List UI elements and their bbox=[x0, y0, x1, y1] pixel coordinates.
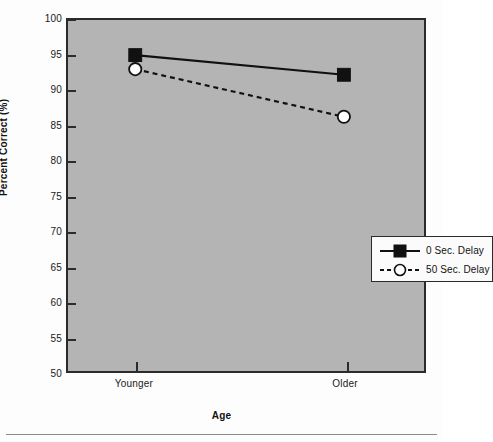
y-tick-label-80: 80 bbox=[22, 155, 62, 166]
y-tick-label-95: 95 bbox=[22, 48, 62, 59]
series-line-50-sec-delay bbox=[135, 69, 344, 117]
plot-area: 0 Sec. Delay 50 Sec. Delay bbox=[66, 18, 426, 373]
y-tick-label-55: 55 bbox=[22, 332, 62, 343]
data-point-50-sec-delay-younger bbox=[129, 63, 141, 75]
x-axis-title: Age bbox=[0, 410, 443, 421]
footer-divider bbox=[6, 434, 437, 435]
y-tick-label-85: 85 bbox=[22, 119, 62, 130]
data-point-50-sec-delay-older bbox=[338, 111, 350, 123]
y-tick-label-90: 90 bbox=[22, 84, 62, 95]
data-point-0-sec-delay-younger bbox=[129, 49, 142, 62]
x-tick-label-younger: Younger bbox=[115, 378, 153, 389]
y-tick-label-70: 70 bbox=[22, 226, 62, 237]
data-layer bbox=[68, 20, 424, 371]
legend-label-50-sec-delay: 50 Sec. Delay bbox=[426, 264, 490, 275]
y-tick-label-100: 100 bbox=[22, 13, 62, 24]
x-tick-label-older: Older bbox=[332, 378, 357, 389]
y-axis-title: Percent Correct (%) bbox=[0, 99, 9, 196]
y-tick-label-75: 75 bbox=[22, 190, 62, 201]
y-tick-label-50: 50 bbox=[22, 368, 62, 379]
data-point-0-sec-delay-older bbox=[337, 68, 350, 81]
y-tick-label-60: 60 bbox=[22, 297, 62, 308]
y-tick-label-65: 65 bbox=[22, 261, 62, 272]
legend-label-0-sec-delay: 0 Sec. Delay bbox=[426, 245, 484, 256]
series-line-0-sec-delay bbox=[135, 55, 344, 75]
